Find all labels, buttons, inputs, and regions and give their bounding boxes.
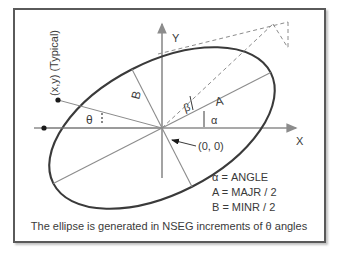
origin-leader-line (172, 140, 196, 146)
beta-label: β (182, 101, 192, 114)
beta-tick-mark (190, 96, 193, 110)
construction-closing-line (273, 24, 288, 48)
semi-major-label: A (214, 94, 224, 109)
legend-group: α = ANGLE A = MAJR / 2 B = MINR / 2 (212, 171, 277, 213)
ellipse-diagram: X Y θ α (0, 0, 339, 255)
alpha-group: α (204, 111, 218, 127)
figure-root: X Y θ α (0, 0, 339, 255)
beta-group: β (182, 96, 193, 114)
ellipse-point-horizontal (41, 125, 46, 130)
origin-callout-group: (0, 0) (172, 140, 224, 152)
semi-minor-label: B (128, 89, 144, 100)
theta-group: θ (41, 97, 162, 130)
theta-label: θ (86, 113, 93, 127)
ellipse-point-theta (55, 97, 60, 102)
legend-item-a: A = MAJR / 2 (212, 186, 277, 198)
legend-item-b: B = MINR / 2 (212, 201, 275, 213)
legend-item-alpha: α = ANGLE (212, 171, 268, 183)
figure-caption: The ellipse is generated in NSEG increme… (31, 220, 308, 232)
axes-group: X Y (34, 24, 304, 178)
y-axis-label: Y (172, 32, 180, 44)
x-axis-label: X (296, 135, 304, 147)
point-typical-label: (x,y) (Typical) (48, 30, 60, 96)
alpha-label: α (211, 114, 218, 126)
origin-label: (0, 0) (198, 140, 224, 152)
